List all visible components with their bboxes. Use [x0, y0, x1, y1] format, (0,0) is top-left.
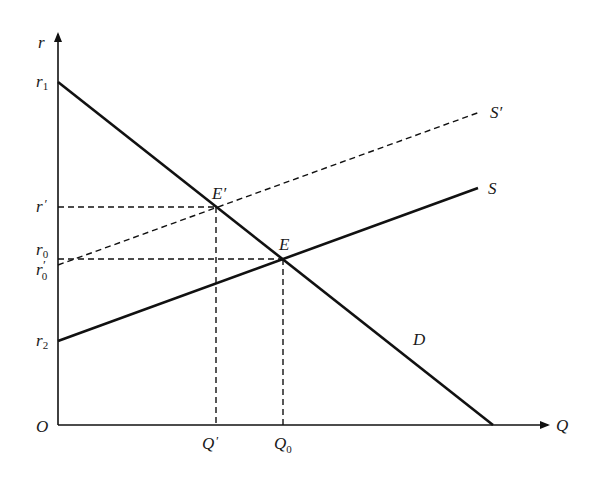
label-s-prime: S′ — [490, 103, 503, 122]
label-d: D — [412, 330, 426, 349]
tick-q0: Q0 — [274, 434, 292, 455]
demand-curve-d — [58, 82, 493, 425]
y-axis-label: r — [38, 33, 45, 52]
tick-r1: r1 — [36, 72, 48, 92]
svg-text:Q′: Q′ — [202, 433, 218, 453]
tick-r2: r2 — [36, 331, 48, 351]
svg-text:Q0: Q0 — [274, 434, 292, 455]
origin-label: O — [36, 417, 48, 436]
label-e: E — [278, 235, 290, 254]
x-axis-label: Q — [556, 416, 568, 435]
supply-curve-s — [58, 188, 478, 341]
tick-q-prime: Q′ — [202, 433, 218, 453]
svg-text:r2: r2 — [36, 331, 48, 351]
supply-demand-diagram: r Q O r1 r′ r0 r0′ r2 Q′ Q0 S′ S D E′ E — [0, 0, 603, 484]
svg-text:r1: r1 — [36, 72, 48, 92]
tick-r0-prime: r0′ — [36, 257, 48, 282]
supply-curve-s-prime — [58, 112, 480, 265]
tick-r-prime: r′ — [36, 196, 47, 216]
label-s: S — [488, 179, 497, 198]
label-e-prime: E′ — [211, 184, 226, 203]
svg-text:r′: r′ — [36, 196, 47, 216]
svg-text:r0′: r0′ — [36, 257, 48, 282]
